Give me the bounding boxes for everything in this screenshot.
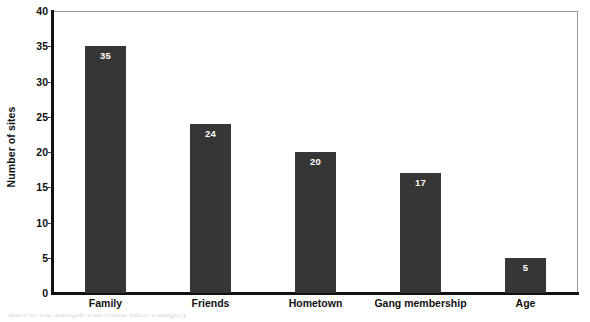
x-axis-label: Gang membership [368, 296, 473, 310]
bar[interactable]: 5 [505, 258, 546, 293]
figure-caption-cropped: sites in the sample that listed each cat… [8, 314, 428, 322]
y-axis-tick-labels: 0510152025303540 [22, 11, 48, 293]
x-axis-label: Family [53, 296, 158, 310]
bar-chart-figure: Number of sites 0510152025303540 3524201… [0, 0, 590, 322]
bars-layer: 352420175 [53, 11, 578, 293]
y-tick-label: 40 [36, 6, 48, 17]
y-axis-title: Number of sites [0, 0, 22, 293]
bar[interactable]: 35 [85, 46, 126, 293]
y-tick-label: 10 [36, 217, 48, 228]
bar-group[interactable]: 24 [190, 11, 231, 293]
figure-caption-text: sites in the sample that listed each cat… [8, 314, 187, 319]
bar-value-label: 24 [190, 129, 231, 139]
bar-group[interactable]: 35 [85, 11, 126, 293]
bar-value-label: 17 [400, 178, 441, 188]
y-tick-label: 30 [36, 76, 48, 87]
bar-group[interactable]: 20 [295, 11, 336, 293]
y-tick-label: 25 [36, 112, 48, 123]
y-tick-label: 35 [36, 41, 48, 52]
x-axis-label: Friends [158, 296, 263, 310]
x-axis-label: Age [473, 296, 578, 310]
bar[interactable]: 20 [295, 152, 336, 293]
x-axis-category-labels: FamilyFriendsHometownGang membershipAge [53, 296, 578, 312]
y-tick-label: 15 [36, 182, 48, 193]
y-axis-title-text: Number of sites [5, 106, 17, 187]
x-axis-label: Hometown [263, 296, 368, 310]
bar-group[interactable]: 17 [400, 11, 441, 293]
bar[interactable]: 24 [190, 124, 231, 293]
bar[interactable]: 17 [400, 173, 441, 293]
bar-value-label: 20 [295, 157, 336, 167]
bar-group[interactable]: 5 [505, 11, 546, 293]
bar-value-label: 5 [505, 263, 546, 273]
bar-value-label: 35 [85, 51, 126, 61]
y-tick-label: 20 [36, 147, 48, 158]
